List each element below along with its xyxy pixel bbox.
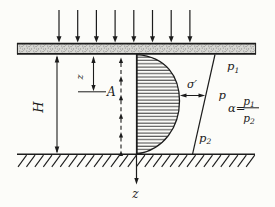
arrow-down-icon (75, 36, 80, 42)
hatch-stroke (145, 155, 154, 167)
height-dimension: H (31, 55, 59, 153)
arrow-down-icon (134, 178, 138, 185)
height-label: H (31, 101, 46, 114)
seepage-flow-arrows (119, 58, 123, 157)
pressure-top-label: p1 (227, 59, 239, 75)
z-axis-label: z (131, 187, 139, 201)
alpha-denominator: p2 (243, 112, 255, 127)
pressure-bottom-label: p2 (199, 131, 211, 147)
hatch-stroke (229, 155, 238, 167)
pressure-mid-label: p (219, 88, 227, 102)
arrow-down-icon (55, 147, 60, 154)
hatch-stroke (119, 155, 128, 167)
arrow-up-icon (119, 58, 123, 64)
hatch-stroke (187, 155, 196, 167)
depth-label: z (74, 74, 85, 81)
effective-stress-dimension: σ′ (180, 78, 205, 98)
arrow-up-icon (119, 76, 123, 82)
pressure-isochrone-curve (137, 55, 180, 155)
surcharge-load-arrows (57, 10, 193, 43)
hatch-stroke (43, 155, 52, 167)
hatch-stroke (162, 155, 171, 167)
arrow-up-icon (119, 95, 123, 101)
hatch-stroke (246, 155, 255, 167)
arrow-down-icon (187, 36, 192, 42)
pressure-bottom-sub: 2 (205, 137, 211, 146)
hatch-stroke (238, 155, 247, 167)
consolidation-diagram: H z A z σ′ p1 p p2 α= p1 p2 (0, 0, 275, 207)
hatch-stroke (86, 155, 95, 167)
arrow-down-icon (91, 85, 95, 91)
alpha-equation: α= p1 p2 (228, 95, 259, 127)
hatch-stroke (170, 155, 179, 167)
arrow-down-icon (150, 36, 155, 42)
arrow-up-icon (91, 56, 95, 63)
hatch-stroke (60, 155, 69, 167)
hatch-stroke (52, 155, 61, 167)
arrow-down-icon (113, 36, 118, 42)
hatch-stroke (221, 155, 230, 167)
arrow-up-icon (119, 113, 123, 119)
hatch-stroke (195, 155, 204, 167)
arrow-down-icon (57, 36, 62, 42)
hatch-stroke (128, 155, 137, 167)
hatch-stroke (18, 155, 27, 167)
arrow-right-icon (199, 93, 206, 97)
top-plate (17, 43, 256, 54)
hatch-stroke (204, 155, 213, 167)
hatch-stroke (26, 155, 35, 167)
alpha-denominator-sub: 2 (249, 117, 255, 126)
pressure-top-sub: 1 (234, 66, 239, 75)
hatch-stroke (179, 155, 188, 167)
arrow-down-icon (131, 36, 136, 42)
hatch-stroke (212, 155, 221, 167)
figure-canvas: H z A z σ′ p1 p p2 α= p1 p2 (0, 0, 275, 207)
arrow-up-icon (119, 132, 123, 138)
arrow-down-icon (94, 36, 99, 42)
hatch-stroke (94, 155, 103, 167)
hatch-stroke (69, 155, 78, 167)
depth-dimension: z A (74, 56, 116, 99)
hatch-stroke (153, 155, 162, 167)
hatch-stroke (103, 155, 112, 167)
hatch-stroke (77, 155, 86, 167)
hatch-stroke (35, 155, 44, 167)
hatch-stroke (111, 155, 120, 167)
effective-stress-label: σ′ (187, 78, 198, 91)
hatch-stroke (136, 155, 145, 167)
arrow-up-icon (55, 55, 60, 62)
point-a-label: A (106, 85, 116, 99)
arrow-down-icon (169, 36, 174, 42)
top-plate-fill (17, 44, 256, 54)
arrow-left-icon (180, 93, 187, 97)
